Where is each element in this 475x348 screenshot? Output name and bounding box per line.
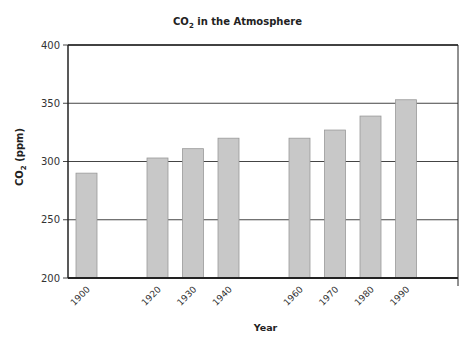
x-tick-label: 1940 <box>211 284 234 307</box>
x-tick-label: 1970 <box>317 284 340 307</box>
x-tick-label: 1920 <box>140 284 163 307</box>
x-tick-label: 1960 <box>282 284 305 307</box>
y-tick-label: 250 <box>41 214 60 225</box>
bar-1900 <box>76 173 97 278</box>
bar-1960 <box>289 138 310 278</box>
x-tick-label: 1900 <box>69 284 92 307</box>
bar-1980 <box>360 116 381 278</box>
y-tick-label: 200 <box>41 273 60 284</box>
bar-chart: 2002503003504001900192019301940196019701… <box>0 0 475 348</box>
y-tick-label: 300 <box>41 156 60 167</box>
bar-1990 <box>396 100 417 278</box>
bar-1940 <box>218 138 239 278</box>
bar-1930 <box>183 149 204 278</box>
bar-1920 <box>147 158 168 278</box>
x-tick-label: 1980 <box>353 284 376 307</box>
bar-1970 <box>325 130 346 278</box>
x-tick-label: 1990 <box>388 284 411 307</box>
x-tick-label: 1930 <box>175 284 198 307</box>
y-tick-label: 350 <box>41 98 60 109</box>
y-tick-label: 400 <box>41 40 60 51</box>
